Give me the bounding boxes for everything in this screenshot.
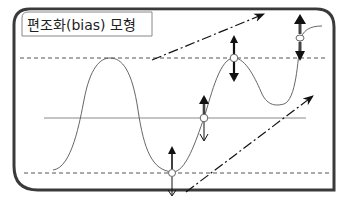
bias-model-diagram: 편조화(bias) 모형 [0, 0, 348, 212]
title-box: 편조화(bias) 모형 [22, 12, 152, 36]
trough-up-arrow-head [168, 146, 176, 154]
peak-up-arrow-head [230, 35, 238, 43]
center-cross-marker [199, 95, 209, 141]
top-right-marker [294, 14, 306, 61]
topright-point [296, 35, 304, 41]
center-up-arrow-head [199, 95, 209, 104]
center-cross-point [200, 114, 208, 122]
peak-marker [229, 35, 239, 82]
trough-point [169, 170, 176, 177]
peak-point [230, 54, 238, 62]
topright-down-arrow-head [295, 51, 305, 61]
topright-up-arrow-head [294, 14, 306, 24]
frame-inner [17, 11, 331, 187]
trend-arrow-upper [152, 14, 264, 60]
title-text: 편조화(bias) 모형 [27, 17, 136, 33]
peak-down-arrow-head [229, 73, 239, 82]
signal-wave [53, 26, 322, 172]
